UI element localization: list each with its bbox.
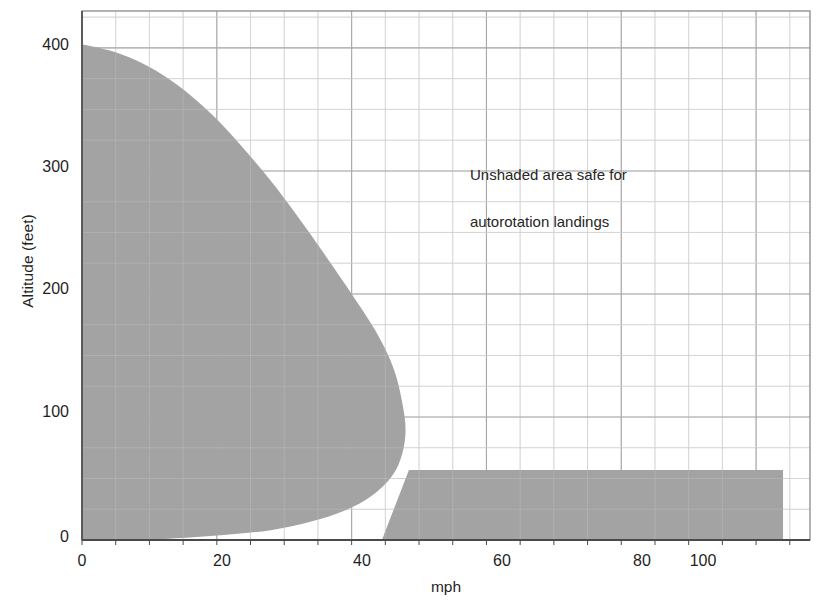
x-tick-label-80: 80: [612, 552, 672, 570]
y-tick-label-0: 0: [9, 528, 69, 546]
x-tick-label-100: 100: [673, 552, 733, 570]
x-axis-title: mph: [82, 578, 810, 596]
plot-area: [0, 0, 818, 612]
plot-annotation: Unshaded area safe for autorotation land…: [470, 140, 627, 256]
y-tick-label-400: 400: [9, 36, 69, 54]
high-speed-avoid-region: [382, 470, 783, 540]
y-tick-label-200: 200: [9, 280, 69, 298]
annotation-line-2: autorotation landings: [470, 210, 627, 233]
x-tick-label-60: 60: [472, 552, 532, 570]
x-tick-label-40: 40: [332, 552, 392, 570]
height-velocity-chart: Altitude (feet) mph 400 300 200 100 0 0 …: [0, 0, 818, 612]
y-tick-label-300: 300: [9, 158, 69, 176]
annotation-line-1: Unshaded area safe for: [470, 163, 627, 186]
y-axis-title: Altitude (feet): [19, 161, 37, 361]
x-tick-label-20: 20: [192, 552, 252, 570]
y-tick-label-100: 100: [9, 403, 69, 421]
x-tick-label-0: 0: [52, 552, 112, 570]
